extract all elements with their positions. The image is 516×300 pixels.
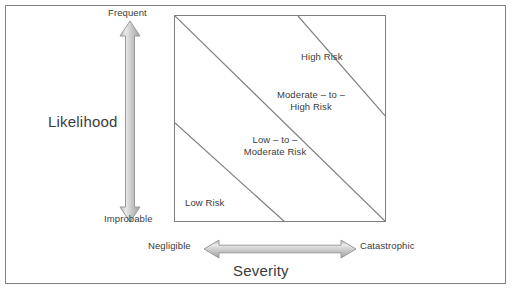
risk-matrix-figure: High Risk Moderate – to – High Risk Low … [0, 0, 516, 300]
x-axis-low-label: Negligible [148, 240, 191, 251]
divider-main [175, 16, 386, 222]
band-label-low-to-moderate-risk: Low – to – Moderate Risk [215, 134, 335, 158]
severity-axis-arrow [203, 238, 357, 260]
band-label-low-risk: Low Risk [185, 197, 224, 209]
risk-matrix-box: High Risk Moderate – to – High Risk Low … [174, 15, 386, 222]
x-axis-title: Severity [233, 262, 289, 279]
y-axis-title: Likelihood [48, 113, 118, 130]
y-axis-low-label: Improbable [104, 213, 153, 224]
y-axis-high-label: Frequent [108, 7, 147, 18]
x-axis-high-label: Catastrophic [360, 240, 415, 251]
likelihood-axis-arrow [118, 20, 142, 223]
band-label-moderate-to-high-risk: Moderate – to – High Risk [251, 89, 371, 113]
band-label-high-risk: High Risk [301, 51, 343, 63]
